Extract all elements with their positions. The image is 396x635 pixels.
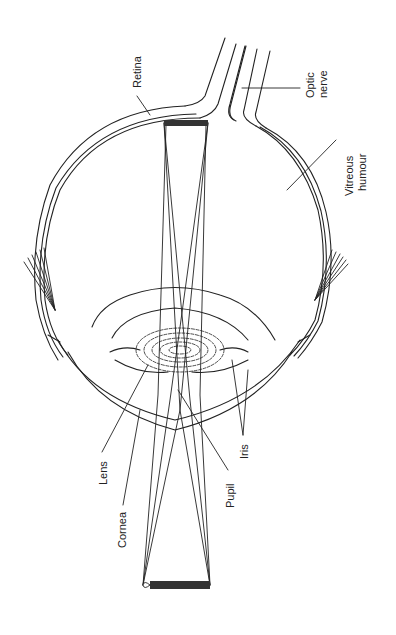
- label-optic: Optic: [304, 72, 316, 98]
- label-pupil: Pupil: [224, 484, 236, 508]
- lens: [136, 328, 224, 372]
- label-lens: Lens: [97, 461, 109, 485]
- candle-object: [150, 581, 210, 589]
- label-cornea: Cornea: [116, 511, 128, 548]
- label-nerve: nerve: [317, 70, 329, 98]
- label-vitreous: Vitreous: [343, 155, 355, 196]
- retina-image: [164, 120, 208, 126]
- label-humour: humour: [356, 153, 368, 191]
- optic-nerve: [185, 38, 270, 128]
- label-retina: Retina: [131, 55, 143, 88]
- label-iris: Iris: [238, 444, 250, 459]
- eye-diagram: Retina Optic nerve Vitreous humour Lens …: [0, 0, 396, 635]
- light-rays: [143, 123, 210, 585]
- iris: [110, 348, 248, 373]
- leader-lines: [102, 88, 336, 505]
- candle-flame-icon: [143, 583, 150, 588]
